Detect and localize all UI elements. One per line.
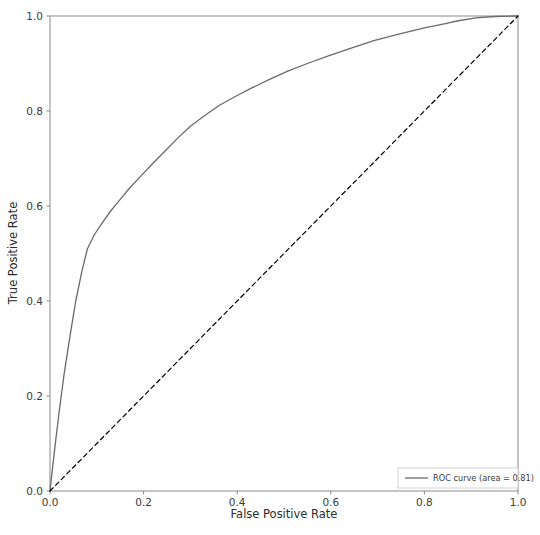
chart-legend: ROC curve (area = 0.81) bbox=[398, 468, 534, 488]
y-axis-title: True Positive Rate bbox=[6, 202, 20, 305]
x-tick-label: 0.8 bbox=[416, 496, 433, 508]
x-tick-label: 0.2 bbox=[135, 496, 152, 508]
chart-canvas: 0.00.20.40.60.81.0 0.00.20.40.60.81.0 Fa… bbox=[0, 0, 540, 535]
y-tick-label: 0.0 bbox=[26, 485, 43, 497]
y-tick-label: 0.6 bbox=[26, 200, 43, 212]
y-tick-label: 0.2 bbox=[26, 390, 43, 402]
x-axis-title: False Positive Rate bbox=[231, 507, 338, 521]
x-tick-label: 1.0 bbox=[510, 496, 527, 508]
roc-curve-figure: 0.00.20.40.60.81.0 0.00.20.40.60.81.0 Fa… bbox=[0, 0, 540, 535]
legend-label: ROC curve (area = 0.81) bbox=[433, 473, 534, 483]
x-axis-ticks: 0.00.20.40.60.81.0 bbox=[42, 491, 527, 508]
y-tick-label: 0.4 bbox=[26, 295, 43, 307]
x-tick-label: 0.0 bbox=[42, 496, 59, 508]
y-axis-ticks: 0.00.20.40.60.81.0 bbox=[26, 10, 50, 497]
y-tick-label: 1.0 bbox=[26, 10, 43, 22]
y-tick-label: 0.8 bbox=[26, 105, 43, 117]
data-series-group bbox=[50, 16, 518, 491]
chance-diagonal-line bbox=[50, 16, 518, 491]
